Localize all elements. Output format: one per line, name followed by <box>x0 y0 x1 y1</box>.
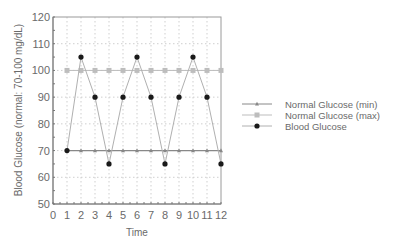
data-point <box>92 95 97 100</box>
data-point <box>78 54 83 59</box>
data-point <box>176 95 181 100</box>
x-tick-label: 9 <box>176 209 182 221</box>
y-tick-label: 100 <box>32 64 50 76</box>
x-tick-label: 12 <box>215 209 227 221</box>
data-point <box>148 95 153 100</box>
series-normal-glucose-min <box>65 148 223 152</box>
legend-item: Normal Glucose (min) <box>242 99 377 110</box>
legend-label: Normal Glucose (max) <box>285 110 380 121</box>
grid <box>53 17 221 204</box>
legend-label: Blood Glucose <box>285 121 347 132</box>
glucose-chart: 01234567891011125060708090100110120 Time… <box>0 0 393 250</box>
data-point <box>93 68 98 73</box>
data-point <box>204 95 209 100</box>
series-normal-glucose-max <box>65 68 224 73</box>
y-tick-label: 60 <box>38 171 50 183</box>
data-point <box>149 68 154 73</box>
data-point <box>65 68 70 73</box>
x-tick-label: 7 <box>148 209 154 221</box>
data-point <box>107 68 112 73</box>
data-point <box>218 161 223 166</box>
data-point <box>120 95 125 100</box>
y-tick-label: 50 <box>38 198 50 210</box>
legend: Normal Glucose (min)Normal Glucose (max)… <box>242 99 380 132</box>
data-point <box>106 161 111 166</box>
data-point <box>64 148 69 153</box>
series-blood-glucose <box>64 54 223 166</box>
data-point <box>190 54 195 59</box>
data-point <box>177 68 182 73</box>
y-tick-label: 120 <box>32 11 50 23</box>
y-axis-title: Blood Glucose (normal: 70-100 mg/dL) <box>13 24 24 196</box>
data-point <box>121 68 126 73</box>
x-tick-label: 3 <box>92 209 98 221</box>
series-layer <box>64 54 223 166</box>
x-tick-label: 2 <box>78 209 84 221</box>
x-tick-label: 0 <box>50 209 56 221</box>
y-tick-label: 110 <box>32 38 50 50</box>
legend-item: Normal Glucose (max) <box>242 110 380 121</box>
data-point <box>205 68 210 73</box>
x-tick-label: 8 <box>162 209 168 221</box>
data-point <box>134 54 139 59</box>
legend-marker <box>255 113 260 118</box>
axes: 01234567891011125060708090100110120 <box>32 11 227 221</box>
data-point <box>135 68 140 73</box>
x-tick-label: 11 <box>201 209 212 221</box>
series-line <box>67 57 221 164</box>
x-tick-label: 5 <box>120 209 126 221</box>
x-axis-title: Time <box>126 227 148 238</box>
data-point <box>219 68 224 73</box>
x-tick-label: 10 <box>187 209 199 221</box>
x-tick-label: 1 <box>64 209 70 221</box>
x-tick-label: 4 <box>106 209 112 221</box>
legend-label: Normal Glucose (min) <box>285 99 377 110</box>
legend-marker <box>254 123 259 128</box>
y-tick-label: 80 <box>38 118 50 130</box>
y-tick-label: 90 <box>38 91 50 103</box>
y-tick-label: 70 <box>38 145 50 157</box>
data-point <box>163 68 168 73</box>
data-point <box>191 68 196 73</box>
legend-item: Blood Glucose <box>242 121 347 132</box>
x-tick-label: 6 <box>134 209 140 221</box>
data-point <box>162 161 167 166</box>
